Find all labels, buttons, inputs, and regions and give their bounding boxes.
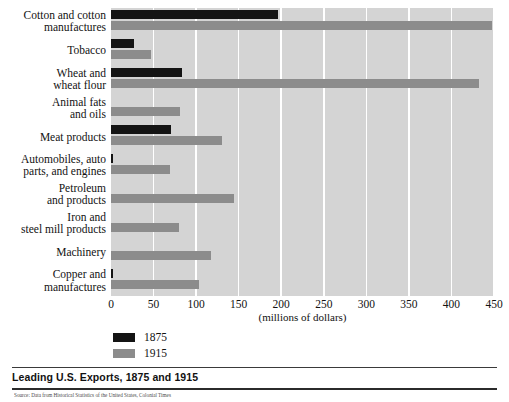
y-axis-label-line: Machinery [0,246,106,258]
y-axis-label: Meat products [0,131,106,143]
chart-figure: Cotton and cottonmanufacturesTobaccoWhea… [0,0,509,402]
x-axis-tick-label: 400 [443,298,460,310]
legend: 1875 1915 [113,331,167,363]
bar-row [111,37,494,66]
y-axis-label: Wheat andwheat flour [0,67,106,91]
y-axis-label-line: Cotton and cotton [0,9,106,21]
x-axis-tick-label: 0 [108,298,114,310]
bar-1915 [111,165,170,174]
bar-1875 [111,154,113,163]
bar-1915 [111,21,492,30]
y-axis-label-line: and oils [0,108,106,120]
bar-1915 [111,194,234,203]
legend-swatch-icon-1915 [113,349,135,358]
y-axis-label: Tobacco [0,44,106,56]
bar-1915 [111,251,211,260]
bar-1875 [111,10,278,19]
x-axis-tick-label: 100 [187,298,204,310]
y-axis-label: Animal fatsand oils [0,96,106,120]
y-axis-label-line: and products [0,194,106,206]
y-axis-label-line: wheat flour [0,79,106,91]
y-axis-label-line: steel mill products [0,223,106,235]
bar-row [111,8,494,37]
y-axis-label: Petroleumand products [0,182,106,206]
legend-label-1915: 1915 [144,348,167,360]
y-axis-label-line: Tobacco [0,44,106,56]
bar-row [111,94,494,123]
y-axis-label: Iron andsteel mill products [0,211,106,235]
legend-item-1875: 1875 [113,331,167,344]
bar-1915 [111,223,179,232]
bar-1915 [111,50,151,59]
legend-item-1915: 1915 [113,347,167,360]
legend-label-1875: 1875 [144,332,167,344]
y-axis-label-line: manufactures [0,281,106,293]
y-axis-label-line: parts, and engines [0,165,106,177]
bar-row [111,66,494,95]
y-axis-label-line: Automobiles, auto [0,153,106,165]
y-axis-label: Automobiles, autoparts, and engines [0,153,106,177]
y-axis-label-line: manufactures [0,21,106,33]
bar-row [111,210,494,239]
legend-swatch-icon-1875 [113,333,135,342]
y-axis-labels: Cotton and cottonmanufacturesTobaccoWhea… [0,8,106,296]
bar-row [111,181,494,210]
bar-row [111,238,494,267]
figure-caption: Leading U.S. Exports, 1875 and 1915 [12,371,198,383]
y-axis-label: Copper andmanufactures [0,268,106,292]
bar-1875 [111,68,182,77]
bar-1915 [111,280,199,289]
caption-rule-top [12,367,497,368]
x-axis-tick-label: 200 [273,298,290,310]
y-axis-label: Machinery [0,246,106,258]
y-axis-label-line: Iron and [0,211,106,223]
bar-1875 [111,269,113,278]
bar-1915 [111,136,222,145]
y-axis-label-line: Wheat and [0,67,106,79]
x-axis-title: (millions of dollars) [111,311,494,323]
bar-1875 [111,39,134,48]
bar-1915 [111,79,479,88]
bar-rows [111,8,494,296]
x-axis-ticks: 050100150200250300350400450 [0,298,509,312]
y-axis-label-line: Copper and [0,268,106,280]
bar-1875 [111,125,171,134]
x-axis-tick-label: 450 [485,298,502,310]
bar-row [111,152,494,181]
x-axis-tick-label: 300 [358,298,375,310]
y-axis-label: Cotton and cottonmanufactures [0,9,106,33]
x-axis-tick-label: 50 [148,298,160,310]
figure-source: Source: Data from Historical Statistics … [14,392,494,401]
x-axis-tick-label: 350 [400,298,417,310]
y-axis-label-line: Animal fats [0,96,106,108]
y-axis-label-line: Petroleum [0,182,106,194]
plot-area [111,8,494,296]
x-axis-tick-label: 150 [230,298,247,310]
caption-rule-bottom [12,388,497,390]
bar-1915 [111,107,180,116]
bar-row [111,123,494,152]
y-axis-label-line: Meat products [0,131,106,143]
bar-row [111,267,494,296]
x-axis-tick-label: 250 [315,298,332,310]
